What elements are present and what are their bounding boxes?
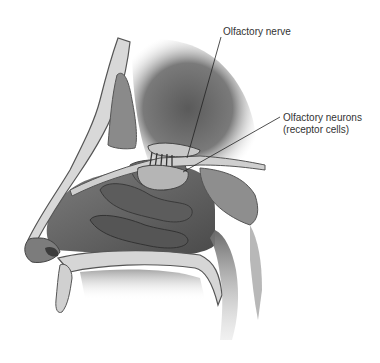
olfactory-neurons-label: Olfactory neurons (receptor cells) [283,112,362,136]
olfactory-epithelium [137,165,188,190]
posterior-wall [250,225,262,320]
nasal-cavity-illustration [0,0,380,363]
olfactory-neurons-text: Olfactory neurons [283,112,362,124]
upper-lip-incisor [56,264,72,312]
palate-shadow [80,270,205,300]
olfactory-nerve-text: Olfactory nerve [223,26,291,37]
receptor-cells-text: (receptor cells) [283,124,362,136]
olfactory-nerve-label: Olfactory nerve [223,26,291,38]
